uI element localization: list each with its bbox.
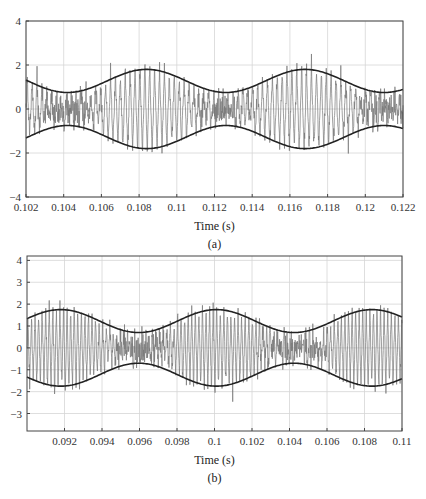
y-tick-label: −3 bbox=[10, 408, 22, 420]
panel-label: (a) bbox=[208, 237, 221, 251]
y-tick-label: 4 bbox=[16, 15, 22, 27]
x-tick-label: 0.104 bbox=[277, 435, 302, 447]
x-tick-label: 0.118 bbox=[315, 201, 340, 213]
panel-label: (b) bbox=[208, 471, 222, 485]
x-tick-label: 0.12 bbox=[356, 201, 375, 213]
x-tick-label: 0.116 bbox=[278, 201, 303, 213]
x-tick-label: 0.092 bbox=[52, 435, 77, 447]
y-tick-label: −1 bbox=[10, 364, 22, 376]
x-tick-label: 0.094 bbox=[90, 435, 115, 447]
x-tick-label: 0.108 bbox=[127, 201, 152, 213]
y-tick-label: 2 bbox=[16, 59, 22, 71]
x-tick-label: 0.102 bbox=[240, 435, 265, 447]
y-tick-label: −4 bbox=[9, 191, 21, 203]
x-tick-label: 0.096 bbox=[127, 435, 152, 447]
y-tick-label: 1 bbox=[17, 320, 23, 332]
x-tick-label: 0.108 bbox=[352, 435, 377, 447]
x-tick-label: 0.11 bbox=[167, 201, 186, 213]
x-tick-label: 0.106 bbox=[89, 201, 114, 213]
x-axis-label: Time (s) bbox=[194, 453, 235, 467]
y-tick-label: −2 bbox=[10, 386, 22, 398]
x-tick-label: 0.122 bbox=[391, 201, 416, 213]
chart-panel-a: 0.1020.1040.1060.1080.110.1120.1140.1160… bbox=[9, 15, 415, 251]
x-tick-label: 0.1 bbox=[208, 435, 222, 447]
figure: 0.1020.1040.1060.1080.110.1120.1140.1160… bbox=[0, 0, 426, 499]
x-tick-label: 0.106 bbox=[315, 435, 340, 447]
x-tick-label: 0.098 bbox=[165, 435, 190, 447]
x-tick-label: 0.114 bbox=[240, 201, 265, 213]
y-tick-label: 0 bbox=[17, 342, 23, 354]
y-tick-label: −2 bbox=[9, 147, 21, 159]
chart-panel-b: 0.0920.0940.0960.0980.10.1020.1040.1060.… bbox=[10, 254, 411, 485]
x-axis-label: Time (s) bbox=[194, 219, 235, 233]
x-tick-label: 0.104 bbox=[51, 201, 76, 213]
y-tick-label: 3 bbox=[17, 276, 23, 288]
y-tick-label: 0 bbox=[16, 103, 22, 115]
x-tick-label: 0.11 bbox=[393, 435, 412, 447]
x-tick-label: 0.112 bbox=[202, 201, 226, 213]
y-tick-label: 4 bbox=[17, 254, 23, 266]
y-tick-label: 2 bbox=[17, 298, 23, 310]
